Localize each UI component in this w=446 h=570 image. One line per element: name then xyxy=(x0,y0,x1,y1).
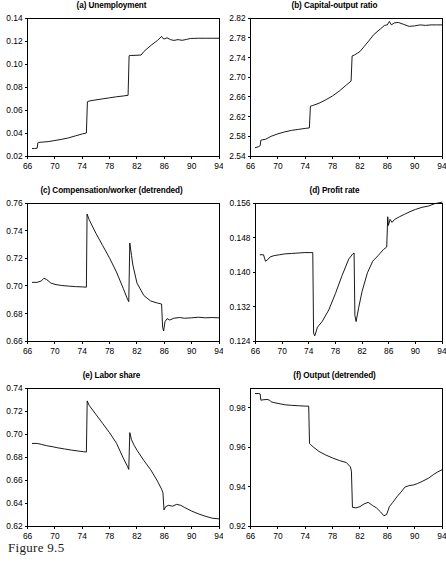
svg-text:0.04: 0.04 xyxy=(6,128,23,138)
svg-text:0.156: 0.156 xyxy=(230,198,251,208)
svg-text:82: 82 xyxy=(357,346,367,356)
panel-e-plot: 0.620.640.660.680.700.720.74667074788286… xyxy=(0,382,223,552)
svg-text:66: 66 xyxy=(246,531,256,541)
panel-b-title: (b) Capital-output ratio xyxy=(223,1,446,10)
svg-text:0.92: 0.92 xyxy=(229,521,246,531)
svg-text:2.82: 2.82 xyxy=(229,13,246,23)
svg-text:0.72: 0.72 xyxy=(6,406,23,416)
panel-f-title: (f) Output (detrended) xyxy=(223,371,446,380)
svg-text:78: 78 xyxy=(105,531,115,541)
svg-text:0.132: 0.132 xyxy=(230,302,251,312)
svg-text:70: 70 xyxy=(273,161,283,171)
chart-panel-b: (b) Capital-output ratio 2.542.582.622.6… xyxy=(223,0,446,185)
svg-text:86: 86 xyxy=(383,531,393,541)
svg-text:0.94: 0.94 xyxy=(229,482,246,492)
svg-text:90: 90 xyxy=(187,346,197,356)
svg-text:74: 74 xyxy=(304,346,314,356)
svg-text:90: 90 xyxy=(187,531,197,541)
chart-panel-d: (d) Profit rate 0.1240.1320.1400.1480.15… xyxy=(223,185,446,370)
svg-text:2.66: 2.66 xyxy=(229,92,246,102)
svg-text:82: 82 xyxy=(355,161,365,171)
svg-text:0.98: 0.98 xyxy=(229,403,246,413)
svg-text:70: 70 xyxy=(50,346,60,356)
svg-text:86: 86 xyxy=(384,346,394,356)
svg-text:66: 66 xyxy=(23,346,33,356)
svg-text:90: 90 xyxy=(187,161,197,171)
svg-text:0.70: 0.70 xyxy=(6,429,23,439)
svg-text:94: 94 xyxy=(437,346,446,356)
chart-panel-a: (a) Unemployment 0.020.040.060.080.100.1… xyxy=(0,0,223,185)
svg-text:0.72: 0.72 xyxy=(6,253,23,263)
svg-text:86: 86 xyxy=(160,531,170,541)
svg-text:86: 86 xyxy=(383,161,393,171)
svg-text:0.74: 0.74 xyxy=(6,226,23,236)
svg-text:94: 94 xyxy=(214,531,223,541)
svg-text:94: 94 xyxy=(214,346,223,356)
panel-d-plot: 0.1240.1320.1400.1480.156667074788286909… xyxy=(223,197,446,367)
svg-text:0.70: 0.70 xyxy=(6,281,23,291)
svg-text:66: 66 xyxy=(251,346,261,356)
svg-text:0.96: 0.96 xyxy=(229,442,246,452)
svg-text:94: 94 xyxy=(437,161,446,171)
figure-caption: Figure 9.5 xyxy=(8,540,64,556)
svg-text:82: 82 xyxy=(132,346,142,356)
svg-text:0.66: 0.66 xyxy=(6,475,23,485)
svg-text:0.62: 0.62 xyxy=(6,521,23,531)
svg-text:2.74: 2.74 xyxy=(229,53,246,63)
panel-c-title: (c) Compensation/worker (detrended) xyxy=(0,186,223,195)
svg-text:94: 94 xyxy=(214,161,223,171)
svg-text:74: 74 xyxy=(301,161,311,171)
svg-text:86: 86 xyxy=(160,346,170,356)
svg-text:82: 82 xyxy=(355,531,365,541)
panel-c-plot: 0.660.680.700.720.740.766670747882869094 xyxy=(0,197,223,367)
svg-text:0.02: 0.02 xyxy=(6,151,23,161)
svg-text:0.06: 0.06 xyxy=(6,105,23,115)
panel-a-title: (a) Unemployment xyxy=(0,1,223,10)
chart-panel-e: (e) Labor share 0.620.640.660.680.700.72… xyxy=(0,370,223,555)
svg-text:0.08: 0.08 xyxy=(6,82,23,92)
svg-text:78: 78 xyxy=(328,531,338,541)
panel-grid: (a) Unemployment 0.020.040.060.080.100.1… xyxy=(0,0,446,530)
svg-text:78: 78 xyxy=(105,161,115,171)
figure-9-5: (a) Unemployment 0.020.040.060.080.100.1… xyxy=(0,0,446,570)
svg-text:0.14: 0.14 xyxy=(6,13,23,23)
chart-panel-f: (f) Output (detrended) 0.920.940.960.986… xyxy=(223,370,446,555)
svg-text:0.66: 0.66 xyxy=(6,336,23,346)
svg-text:0.68: 0.68 xyxy=(6,452,23,462)
svg-text:0.76: 0.76 xyxy=(6,198,23,208)
svg-text:74: 74 xyxy=(78,531,88,541)
panel-f-plot: 0.920.940.960.986670747882869094 xyxy=(223,382,446,552)
svg-text:2.70: 2.70 xyxy=(229,72,246,82)
panel-b-plot: 2.542.582.622.662.702.742.782.8266707478… xyxy=(223,12,446,182)
svg-text:0.124: 0.124 xyxy=(230,336,251,346)
svg-text:70: 70 xyxy=(50,161,60,171)
svg-text:70: 70 xyxy=(277,346,287,356)
svg-text:66: 66 xyxy=(246,161,256,171)
svg-text:74: 74 xyxy=(301,531,311,541)
svg-text:70: 70 xyxy=(273,531,283,541)
svg-text:90: 90 xyxy=(411,346,421,356)
svg-text:94: 94 xyxy=(437,531,446,541)
svg-text:82: 82 xyxy=(132,531,142,541)
svg-text:78: 78 xyxy=(105,346,115,356)
svg-text:2.62: 2.62 xyxy=(229,112,246,122)
svg-text:0.64: 0.64 xyxy=(6,498,23,508)
svg-text:78: 78 xyxy=(328,161,338,171)
svg-text:90: 90 xyxy=(410,531,420,541)
svg-text:74: 74 xyxy=(78,161,88,171)
svg-text:0.74: 0.74 xyxy=(6,383,23,393)
svg-text:74: 74 xyxy=(78,346,88,356)
svg-text:86: 86 xyxy=(160,161,170,171)
svg-text:0.140: 0.140 xyxy=(230,267,251,277)
svg-text:78: 78 xyxy=(331,346,341,356)
svg-text:0.68: 0.68 xyxy=(6,309,23,319)
panel-e-title: (e) Labor share xyxy=(0,371,223,380)
svg-text:90: 90 xyxy=(410,161,420,171)
svg-text:2.78: 2.78 xyxy=(229,33,246,43)
svg-text:0.10: 0.10 xyxy=(6,59,23,69)
svg-text:82: 82 xyxy=(132,161,142,171)
svg-text:0.148: 0.148 xyxy=(230,233,251,243)
svg-text:66: 66 xyxy=(23,161,33,171)
svg-text:0.12: 0.12 xyxy=(6,36,23,46)
chart-panel-c: (c) Compensation/worker (detrended) 0.66… xyxy=(0,185,223,370)
